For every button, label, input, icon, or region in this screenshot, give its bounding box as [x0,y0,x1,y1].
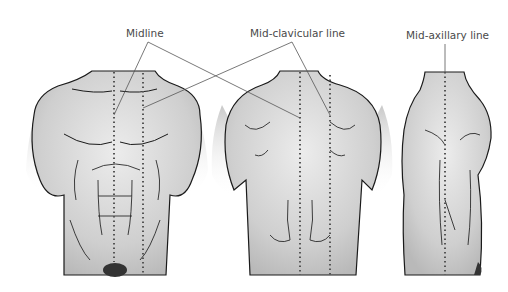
anatomy-illustration [0,0,508,292]
mid-axillary-label: Mid-axillary line [406,29,489,41]
front-torso-figure [26,71,208,277]
midline-label: Midline [126,27,164,39]
mid-clavicular-label: Mid-clavicular line [250,27,345,39]
side-torso-figure [402,72,491,275]
back-torso-figure [212,71,393,275]
